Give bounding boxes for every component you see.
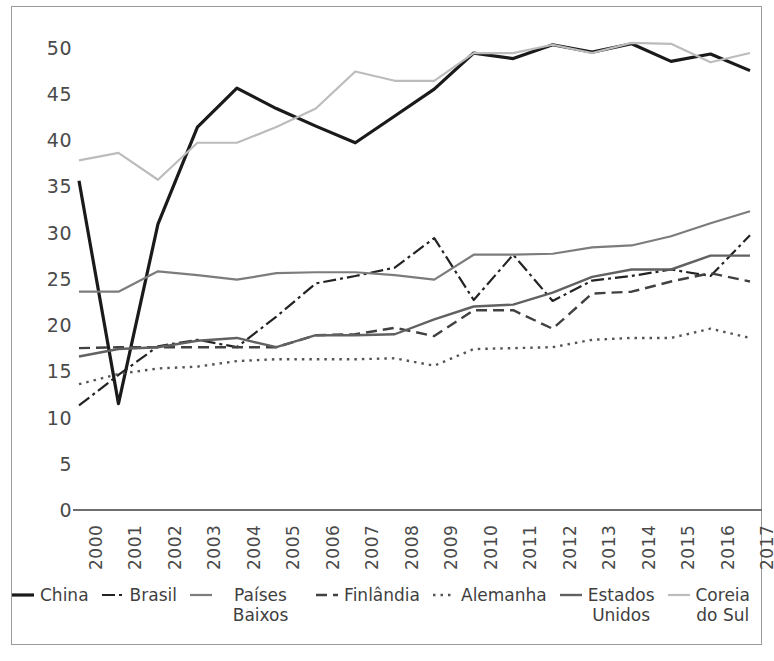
plot-area: 05101520253035404550 [12,7,763,567]
x-tick-label: 2013 [599,525,619,570]
legend-label: Estados Unidos [588,585,655,625]
series-line-alemanha [79,329,750,385]
legend-swatch-icon [316,588,338,602]
legend-item-brasil[interactable]: Brasil [102,585,177,605]
y-tick-label: 15 [32,360,72,382]
chart-legend: ChinaBrasilPaíses BaixosFinlândiaAlemanh… [12,585,763,625]
series-line-pa-ses-baixos [79,211,750,291]
legend-item-finl-ndia[interactable]: Finlândia [316,585,420,605]
legend-swatch-icon [560,588,582,602]
y-tick-label: 35 [32,175,72,197]
series-line-estados-unidos [79,256,750,357]
y-axis-tick-labels: 05101520253035404550 [12,7,72,567]
x-tick-label: 2003 [204,525,224,570]
x-axis-tick-labels: 2000200120022003200420052006200720082009… [12,507,763,587]
y-tick-label: 25 [32,268,72,290]
x-tick-label: 2006 [323,525,343,570]
x-tick-label: 2010 [481,525,501,570]
series-line-coreia-do-sul [79,43,750,180]
legend-item-estados-unidos[interactable]: Estados Unidos [560,585,655,625]
x-tick-label: 2005 [283,525,303,570]
y-tick-label: 50 [32,37,72,59]
legend-label: Países Baixos [218,585,303,625]
x-tick-label: 2004 [244,525,264,570]
y-tick-label: 10 [32,407,72,429]
legend-item-coreia-do-sul[interactable]: Coreia do Sul [668,585,751,625]
x-tick-label: 2016 [718,525,738,570]
legend-label: China [40,585,89,605]
x-tick-label: 2007 [362,525,382,570]
y-tick-label: 20 [32,314,72,336]
legend-swatch-icon [12,588,34,602]
line-chart-svg [12,7,763,567]
y-tick-label: 45 [32,83,72,105]
chart-figure: 05101520253035404550 2000200120022003200… [11,6,762,645]
x-tick-label: 2002 [165,525,185,570]
y-tick-label: 30 [32,222,72,244]
legend-item-pa-ses-baixos[interactable]: Países Baixos [190,585,303,625]
series-line-china [79,44,750,404]
x-axis-area: 2000200120022003200420052006200720082009… [12,507,763,587]
legend-label: Alemanha [461,585,547,605]
x-tick-label: 2015 [678,525,698,570]
y-tick-label: 5 [32,453,72,475]
x-tick-label: 2009 [441,525,461,570]
legend-swatch-icon [190,588,212,602]
legend-label: Coreia do Sul [696,585,751,625]
legend-label: Brasil [130,585,177,605]
legend-swatch-icon [102,588,124,602]
series-line-brasil [79,235,750,405]
legend-swatch-icon [668,588,690,602]
legend-swatch-icon [433,588,455,602]
x-tick-label: 2014 [639,525,659,570]
legend-item-alemanha[interactable]: Alemanha [433,585,547,605]
x-tick-label: 2017 [757,525,774,570]
x-tick-label: 2008 [402,525,422,570]
x-tick-label: 2001 [125,525,145,570]
x-tick-label: 2011 [520,525,540,570]
legend-label: Finlândia [344,585,420,605]
x-tick-label: 2000 [86,525,106,570]
legend-item-china[interactable]: China [12,585,89,605]
y-tick-label: 40 [32,129,72,151]
series-line-finl-ndia [79,273,750,348]
x-tick-label: 2012 [560,525,580,570]
